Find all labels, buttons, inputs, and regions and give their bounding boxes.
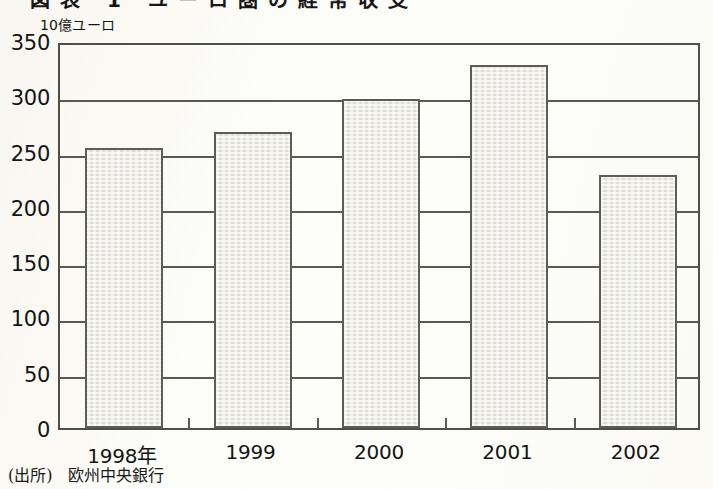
y-axis-tick-label: 100 — [0, 307, 50, 331]
y-axis-tick-label: 250 — [0, 142, 50, 166]
bar — [470, 65, 548, 428]
bar — [214, 132, 292, 428]
y-axis-tick-label: 350 — [0, 31, 50, 55]
x-axis-tick-mark — [574, 418, 576, 429]
source-label: (出所) — [8, 466, 52, 485]
bar-chart: 0501001502002503003501998年19992000200120… — [0, 0, 713, 489]
y-axis-tick-label: 50 — [0, 363, 50, 387]
source-note: (出所) 欧州中央銀行 — [8, 462, 164, 486]
y-axis-tick-label: 200 — [0, 197, 50, 221]
x-axis-tick-mark — [188, 418, 190, 429]
x-axis-tick-label: 2002 — [611, 440, 661, 464]
x-axis-tick-label: 1999 — [226, 440, 276, 464]
source-value: 欧州中央銀行 — [68, 466, 164, 485]
bar — [599, 175, 677, 428]
y-axis-tick-label: 0 — [0, 418, 50, 442]
x-axis-tick-mark — [445, 418, 447, 429]
y-axis-tick-label: 150 — [0, 252, 50, 276]
x-axis-tick-label: 2000 — [354, 440, 404, 464]
x-axis-tick-mark — [317, 418, 319, 429]
bar — [342, 99, 420, 429]
x-axis-tick-label: 2001 — [482, 440, 532, 464]
plot-area — [58, 43, 700, 430]
y-axis-tick-label: 300 — [0, 86, 50, 110]
bar — [85, 148, 163, 428]
